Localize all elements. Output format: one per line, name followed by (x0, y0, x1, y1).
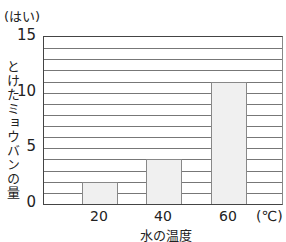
bar-20 (82, 182, 118, 204)
x-unit-label: (℃) (256, 208, 283, 224)
y-tick-label: 10 (16, 82, 36, 100)
x-tick-label: 60 (208, 208, 248, 224)
gridline (44, 48, 282, 49)
gridline (44, 70, 282, 71)
y-tick-label: 5 (16, 137, 36, 155)
x-tick-label: 40 (143, 208, 183, 224)
bar-40 (146, 159, 182, 204)
bar-60 (211, 82, 247, 204)
x-axis-label: 水の温度 (140, 225, 192, 242)
gridline (44, 59, 282, 60)
x-tick-label: 20 (79, 208, 119, 224)
y-tick-label: 0 (16, 193, 36, 211)
y-tick-label: 15 (16, 26, 36, 44)
plot-area (43, 36, 283, 205)
y-unit-label: (はい) (4, 6, 40, 25)
